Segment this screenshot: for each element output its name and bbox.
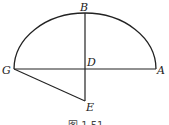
geometry-figure: B D G A E 图 1.51 (0, 0, 169, 125)
label-G: G (2, 64, 11, 77)
segment-GE (14, 69, 85, 101)
label-E: E (85, 101, 94, 114)
figure-caption: 图 1.51 (68, 120, 103, 125)
label-A: A (156, 64, 165, 77)
label-D: D (86, 56, 96, 69)
label-B: B (79, 1, 88, 14)
